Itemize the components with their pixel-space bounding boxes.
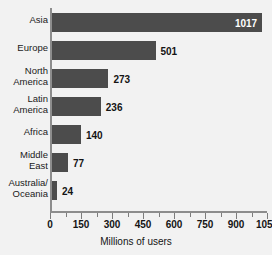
bar: 24 <box>52 181 57 200</box>
x-tick-label: 600 <box>166 219 183 230</box>
x-tick-minor <box>190 213 191 217</box>
bar: 236 <box>52 97 101 116</box>
bar-chart: Asia1017Europe501North America273Latin A… <box>0 0 272 255</box>
bar-row: Middle East77 <box>0 149 272 177</box>
bar-wrapper: 236 <box>52 97 101 116</box>
x-tick-label: 750 <box>197 219 214 230</box>
x-tick-label: 150 <box>73 219 90 230</box>
category-label: Asia <box>0 15 48 26</box>
bar-row: North America273 <box>0 65 272 93</box>
bar: 140 <box>52 125 81 144</box>
x-axis-tick-labels: 01503004506007509001050 <box>0 219 272 233</box>
x-tick-minor <box>128 213 129 217</box>
bar-wrapper: 1017 <box>52 13 262 32</box>
category-label: North America <box>0 66 48 87</box>
bar-row: Europe501 <box>0 37 272 65</box>
bar-value-label: 1017 <box>235 17 257 28</box>
bar-row: Asia1017 <box>0 9 272 37</box>
x-tick-label: 450 <box>135 219 152 230</box>
bar: 501 <box>52 41 156 60</box>
bar-wrapper: 77 <box>52 153 68 172</box>
bar-row: Africa140 <box>0 121 272 149</box>
bar-wrapper: 140 <box>52 125 81 144</box>
category-label: Europe <box>0 43 48 54</box>
bar-row: Australia/ Oceania24 <box>0 177 272 205</box>
bar-rows: Asia1017Europe501North America273Latin A… <box>0 9 272 205</box>
x-tick-label: 0 <box>47 219 53 230</box>
category-label: Africa <box>0 127 48 138</box>
bar-value-label: 236 <box>106 101 123 112</box>
x-tick-label: 1050 <box>256 219 272 230</box>
category-label: Middle East <box>0 150 48 171</box>
bar-wrapper: 273 <box>52 69 108 88</box>
bar-value-label: 24 <box>62 185 73 196</box>
x-tick-label: 300 <box>104 219 121 230</box>
x-axis-title: Millions of users <box>0 236 272 247</box>
x-tick-minor <box>97 213 98 217</box>
bar-value-label: 273 <box>113 73 130 84</box>
bar-value-label: 501 <box>161 45 178 56</box>
bar-value-label: 140 <box>86 129 103 140</box>
x-tick-minor <box>159 213 160 217</box>
x-tick-minor <box>221 213 222 217</box>
bar-wrapper: 501 <box>52 41 156 60</box>
category-label: Latin America <box>0 94 48 115</box>
x-tick-label: 900 <box>228 219 245 230</box>
category-label: Australia/ Oceania <box>0 178 48 199</box>
bar: 273 <box>52 69 108 88</box>
bar: 1017 <box>52 13 262 32</box>
x-tick-minor <box>66 213 67 217</box>
x-tick-minor <box>252 213 253 217</box>
bar-wrapper: 24 <box>52 181 57 200</box>
bar-value-label: 77 <box>73 157 84 168</box>
bar-row: Latin America236 <box>0 93 272 121</box>
bar: 77 <box>52 153 68 172</box>
